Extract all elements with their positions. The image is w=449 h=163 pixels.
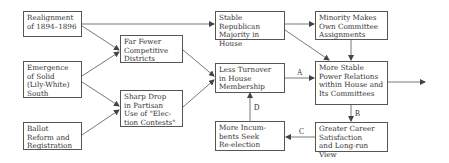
edge-realignment-fewer bbox=[82, 26, 119, 50]
edge-label-b: B bbox=[355, 109, 360, 118]
node-sharp-drop-election-contests: Sharp Drop in Partisan Use of "Elec- tio… bbox=[120, 90, 183, 127]
edge-emergence-fewer bbox=[82, 52, 119, 76]
edge-label-c: C bbox=[299, 127, 304, 136]
node-emergence-solid-south: Emergence of Solid (Lily-White) South bbox=[23, 61, 82, 98]
edge-label-a: A bbox=[297, 68, 303, 77]
causal-diagram: A B C D Realignment of 1894–1896 Emergen… bbox=[0, 0, 449, 163]
edge-emergence-sharp bbox=[82, 82, 119, 106]
edge-label-d: D bbox=[254, 103, 260, 112]
node-less-turnover: Less Turnover in House Membership bbox=[215, 63, 285, 93]
node-stable-republican-majority: Stable Republican Majority in House bbox=[215, 11, 285, 40]
node-fewer-competitive-districts: Far Fewer Competitive Districts bbox=[120, 35, 183, 63]
node-realignment: Realignment of 1894–1896 bbox=[23, 11, 82, 37]
node-more-incumbents: More Incum- bents Seek Re-election bbox=[215, 121, 285, 151]
node-stable-power-relations: More Stable Power Relations within House… bbox=[315, 61, 388, 105]
node-ballot-reform: Ballot Reform and Registration bbox=[23, 122, 82, 150]
node-minority-committee-assignments: Minority Makes Own Committee Assignments bbox=[315, 11, 388, 40]
node-career-satisfaction: Greater Career Satisfaction and Long-run… bbox=[315, 122, 388, 152]
edge-ballot-sharp bbox=[82, 110, 119, 135]
edge-sharp-turnover bbox=[183, 80, 214, 107]
edge-fewer-turnover bbox=[183, 50, 214, 76]
